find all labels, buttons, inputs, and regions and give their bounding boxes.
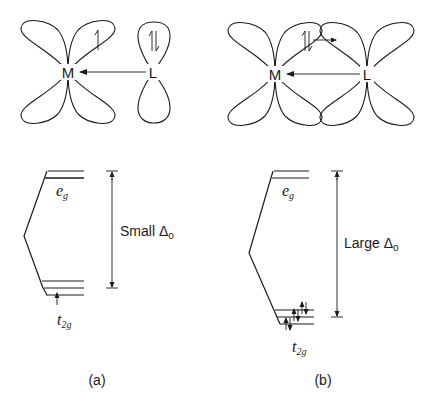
- caption-b: (b): [314, 372, 331, 388]
- eg-levels-b: [272, 171, 309, 178]
- metal-electron-pair-b: [302, 31, 312, 51]
- ligand-electron-pair-a: [149, 31, 159, 51]
- panel-b-energy-diagram: eg t2g Large Δo (b): [249, 171, 399, 388]
- delta-label-a: Small Δo: [120, 223, 174, 241]
- ligand-label-a: L: [149, 64, 157, 81]
- metal-label-b: M: [269, 66, 282, 83]
- panel-b-orbitals: M L: [228, 23, 414, 126]
- eg-levels-a: [46, 171, 84, 178]
- metal-label-a: M: [62, 64, 75, 81]
- panel-a-energy-diagram: eg t2g Small Δo (a): [24, 171, 174, 388]
- t2g-label-a: t2g: [57, 311, 71, 330]
- splitting-lines-a: [24, 171, 47, 288]
- panel-a-orbitals: M L: [21, 21, 170, 124]
- splitting-lines-b: [249, 171, 280, 324]
- delta-dimension-b: [331, 171, 343, 317]
- t2g-levels-b: [275, 310, 314, 324]
- t2g-levels-a: [42, 281, 84, 295]
- t2g-electron-pairs-b: [286, 302, 306, 330]
- eg-label-a: eg: [56, 182, 68, 201]
- ligand-label-b: L: [363, 66, 371, 83]
- ligand-field-diagram: M L: [0, 0, 432, 417]
- t2g-label-b: t2g: [292, 338, 306, 357]
- caption-a: (a): [88, 372, 105, 388]
- delta-dimension-a: [106, 171, 118, 288]
- eg-label-b: eg: [282, 182, 294, 201]
- delta-label-b: Large Δo: [344, 235, 399, 253]
